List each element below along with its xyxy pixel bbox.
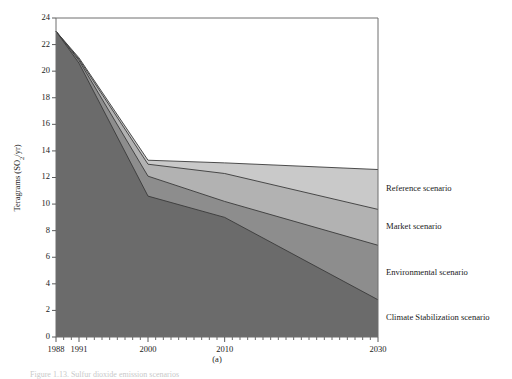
- y-tick-label: 12: [42, 171, 51, 181]
- y-tick-label: 14: [42, 145, 51, 155]
- chart-legend: Reference scenarioMarket scenarioEnviron…: [386, 183, 490, 322]
- legend-label-3: Climate Stabilization scenario: [386, 312, 490, 322]
- area-chart: 024681012141618202224 198819912000201020…: [0, 0, 512, 379]
- legend-label-0: Reference scenario: [386, 183, 452, 193]
- x-tick-label: 2030: [370, 344, 387, 354]
- x-tick-label: 2000: [140, 344, 157, 354]
- y-tick-label: 0: [46, 331, 50, 341]
- y-axis-title: Teragrams (SO2/yr): [12, 144, 25, 211]
- y-tick-label: 16: [42, 118, 51, 128]
- figure-caption-cropped: Figure 1.13. Sulfur dioxide emission sce…: [30, 370, 370, 379]
- y-tick-label: 20: [42, 65, 51, 75]
- chart-bands: [56, 31, 378, 337]
- figure-subcaption: (a): [212, 354, 222, 364]
- y-tick-label: 22: [42, 39, 51, 49]
- y-tick-label: 8: [46, 225, 50, 235]
- x-tick-label: 1991: [71, 344, 88, 354]
- y-tick-label: 6: [46, 251, 50, 261]
- y-tick-label: 18: [42, 92, 51, 102]
- y-tick-label: 10: [42, 198, 51, 208]
- x-tick-labels: 19881991200020102030: [48, 344, 387, 354]
- y-tick-label: 4: [46, 278, 51, 288]
- y-tick-label: 24: [42, 12, 51, 22]
- y-tick-label: 2: [46, 304, 50, 314]
- figure-container: 024681012141618202224 198819912000201020…: [0, 0, 512, 379]
- x-tick-label: 1988: [48, 344, 65, 354]
- y-tick-labels: 024681012141618202224: [42, 12, 51, 341]
- legend-label-2: Environmental scenario: [386, 267, 468, 277]
- legend-label-1: Market scenario: [386, 221, 442, 231]
- x-tick-label: 2010: [216, 344, 233, 354]
